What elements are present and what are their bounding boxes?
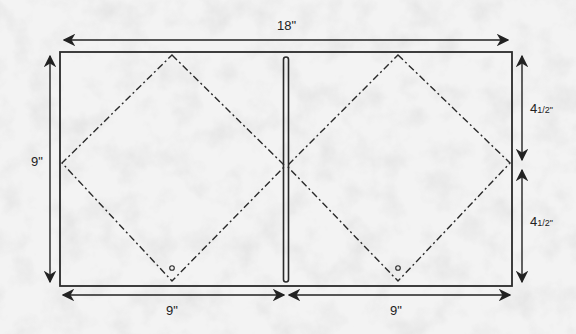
top-dimension-label: 18" (277, 18, 296, 33)
pattern-diagram (0, 0, 576, 334)
right-upper-fraction: 1/2" (537, 105, 553, 115)
right-upper-dimension-label: 41/2" (530, 101, 553, 116)
bottom-right-dimension-label: 9" (390, 303, 402, 318)
right-lower-fraction: 1/2" (537, 218, 553, 228)
left-dimension-label: 9" (31, 154, 43, 169)
right-lower-dimension-label: 41/2" (530, 214, 553, 229)
bottom-left-dimension-label: 9" (166, 303, 178, 318)
